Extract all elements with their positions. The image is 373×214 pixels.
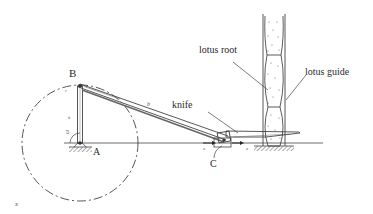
joint-a — [78, 141, 82, 145]
label-lotus-root: lotus root — [199, 44, 237, 55]
mechanism-diagram: B A C knife lotus root lotus guide r a ω… — [0, 0, 373, 214]
ground-support-guide — [254, 146, 294, 151]
connecting-rod — [80, 84, 228, 142]
diagram-canvas: B A C knife lotus root lotus guide r a ω… — [0, 0, 373, 214]
label-crank-a: a — [66, 116, 71, 119]
label-link-b: b — [147, 101, 150, 107]
label-slider-x1: x — [202, 146, 206, 151]
knife-leader — [208, 112, 238, 133]
label-lotus-guide: lotus guide — [305, 66, 350, 77]
lotus-guide-leader — [286, 75, 306, 100]
label-knife: knife — [172, 99, 193, 110]
label-point-c: C — [210, 158, 217, 169]
label-crank-r: r — [65, 88, 67, 93]
crank-link — [78, 86, 83, 143]
label-omega: ω — [64, 130, 70, 134]
point-c-leader — [214, 146, 222, 158]
label-corner-x: x — [14, 200, 19, 208]
label-point-a: A — [93, 146, 101, 157]
joint-c — [222, 138, 225, 141]
lotus-root-dots — [267, 21, 280, 139]
label-slider-x2: x — [245, 146, 249, 151]
lotus-guide-tube — [263, 14, 285, 146]
label-point-b: B — [69, 67, 76, 79]
omega-arc — [70, 133, 80, 143]
lotus-root — [265, 16, 284, 146]
